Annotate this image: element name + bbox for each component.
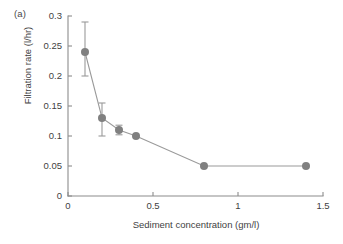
x-axis-tick-labels: 00.511.5 bbox=[65, 200, 329, 211]
data-point bbox=[81, 48, 89, 56]
data-point bbox=[302, 162, 310, 170]
data-point bbox=[132, 132, 140, 140]
y-axis-tick-labels: 00.050.10.150.20.250.3 bbox=[44, 10, 63, 201]
data-points bbox=[81, 48, 310, 170]
y-tick-label: 0.2 bbox=[49, 70, 62, 81]
x-tick-label: 1 bbox=[235, 200, 240, 211]
y-axis-ticks bbox=[68, 16, 72, 196]
data-line bbox=[85, 52, 306, 166]
series-polyline bbox=[85, 52, 306, 166]
axes-group bbox=[68, 16, 323, 196]
y-tick-label: 0.1 bbox=[49, 130, 62, 141]
x-tick-label: 0 bbox=[65, 200, 70, 211]
y-tick-label: 0 bbox=[57, 190, 62, 201]
y-tick-label: 0.3 bbox=[49, 10, 62, 21]
y-tick-label: 0.15 bbox=[44, 100, 63, 111]
data-point bbox=[200, 162, 208, 170]
scatter-plot: 00.050.10.150.20.250.3 00.511.5 bbox=[0, 0, 343, 244]
x-tick-label: 0.5 bbox=[146, 200, 159, 211]
y-tick-label: 0.05 bbox=[44, 160, 63, 171]
figure-panel-a: (a) Filtration rate (l/hr) Sediment conc… bbox=[0, 0, 343, 244]
y-tick-label: 0.25 bbox=[44, 40, 63, 51]
data-point bbox=[115, 126, 123, 134]
x-tick-label: 1.5 bbox=[316, 200, 329, 211]
data-point bbox=[98, 114, 106, 122]
x-axis-ticks bbox=[68, 192, 323, 196]
